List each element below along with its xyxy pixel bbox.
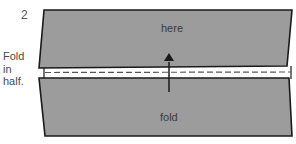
top-flap-label: here — [161, 22, 183, 34]
fold-line — [45, 72, 291, 73]
instruction-line: in — [3, 63, 24, 76]
instruction-text: Fold in half. — [3, 50, 24, 88]
instruction-line: half. — [3, 75, 24, 88]
bottom-flap — [39, 78, 292, 136]
instruction-line: Fold — [3, 50, 24, 63]
bottom-flap-label: fold — [160, 111, 178, 123]
origami-step-diagram: 2 Fold in half. here fold — [0, 0, 296, 144]
fold-diagram-graphic — [0, 0, 296, 144]
step-number: 2 — [21, 9, 28, 21]
